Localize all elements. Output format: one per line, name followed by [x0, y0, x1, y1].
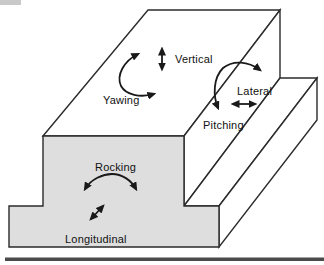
scan-artifact — [0, 0, 21, 5]
lateral-label: Lateral — [237, 85, 272, 97]
yawing-label: Yawing — [103, 94, 139, 106]
vibration-modes-diagram: Vertical Yawing Lateral Pitching Rocking… — [0, 0, 324, 265]
rocking-label: Rocking — [95, 161, 136, 173]
ground-line — [5, 258, 324, 262]
longitudinal-label: Longitudinal — [65, 233, 127, 245]
diagram-canvas: Vertical Yawing Lateral Pitching Rocking… — [0, 0, 324, 265]
vertical-label: Vertical — [175, 53, 213, 65]
pitching-label: Pitching — [203, 119, 244, 131]
